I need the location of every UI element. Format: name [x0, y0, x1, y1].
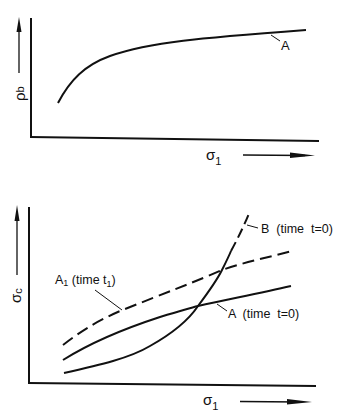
bottom-y-arrow-icon: [15, 205, 20, 275]
bottom-curve-a-leader: [217, 304, 227, 311]
top-panel: ρb σ1 A: [11, 17, 319, 167]
bottom-panel: σc σ1 B (time t=0) A (time t=0) A1 (time…: [7, 205, 333, 412]
bottom-curve-a1-label: A1 (time t1): [55, 273, 116, 289]
top-curve-a-label: A: [281, 38, 290, 53]
bottom-curve-a1: [63, 251, 292, 345]
bottom-curve-b-solid: [64, 251, 231, 373]
bottom-x-arrow-icon: [240, 399, 312, 405]
bottom-x-label: σ1: [203, 391, 218, 412]
top-x-label: σ1: [206, 146, 221, 167]
bottom-curve-b-dashed: [231, 211, 250, 251]
bottom-curve-b-leader: [247, 225, 258, 228]
bottom-curve-a1-leader: [95, 290, 122, 310]
bottom-y-label: σc: [7, 288, 24, 303]
bottom-x-axis: [28, 383, 316, 386]
bottom-curve-a-label: A (time t=0): [228, 307, 299, 321]
diagram-canvas: ρb σ1 A σc σ1: [0, 0, 360, 417]
top-y-arrow-icon: [17, 17, 22, 73]
top-y-label: ρb: [11, 86, 28, 101]
top-curve-a: [58, 30, 306, 103]
top-curve-a-leader: [271, 35, 280, 41]
bottom-curve-b-label: B (time t=0): [261, 222, 333, 236]
top-x-axis: [30, 137, 319, 141]
top-x-arrow-icon: [243, 153, 315, 159]
